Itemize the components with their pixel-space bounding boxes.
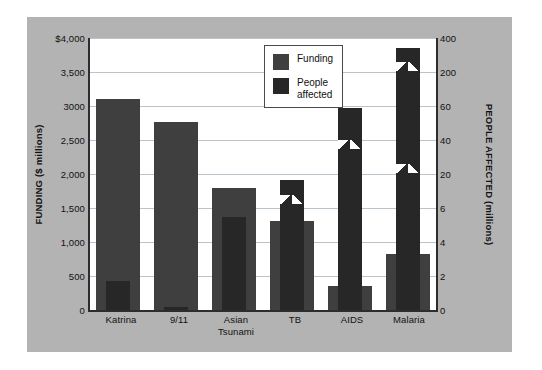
x-axis-line: [88, 310, 438, 312]
x-label-911: 9/11: [148, 314, 210, 326]
y-tick-left-3500: 3,500: [61, 67, 85, 78]
legend-label-people-affected: People affected: [297, 77, 332, 100]
legend-label-funding: Funding: [297, 53, 333, 65]
bar-group-malaria: [386, 38, 436, 310]
y-tick-left-1000: 1,000: [61, 237, 85, 248]
axis-break-malaria-upper: [396, 62, 420, 71]
x-label-asian-tsunami: Asian Tsunami: [203, 314, 269, 338]
y-tick-left-1500: 1,500: [61, 203, 85, 214]
axis-break-aids: [338, 140, 362, 149]
bar-people-asian-tsunami[interactable]: [222, 217, 246, 310]
y-axis-left-title: FUNDING ($ millions): [30, 38, 46, 310]
y-axis-right-title: PEOPLE AFFECTED (millions): [482, 38, 498, 310]
bar-group-katrina: [96, 38, 146, 310]
x-label-katrina: Katrina: [88, 314, 154, 326]
chart-figure: $4,000 3,500 3000 2,500 2,000 1,500 1,00…: [0, 0, 542, 370]
x-label-tb: TB: [264, 314, 326, 326]
x-label-aids: AIDS: [321, 314, 383, 326]
axis-break-tb: [280, 195, 304, 204]
y-tick-left-0: 0: [80, 305, 85, 316]
chart-legend: Funding People affected: [264, 45, 343, 108]
bar-funding-911[interactable]: [154, 122, 198, 310]
y-tick-left-4000: $4,000: [55, 33, 85, 44]
bar-people-malaria[interactable]: [396, 48, 420, 310]
legend-swatch-funding-icon: [273, 54, 289, 70]
y-tick-right-4: 4: [440, 237, 445, 248]
legend-item-people-affected[interactable]: People affected: [273, 77, 333, 100]
y-tick-right-60: 60: [440, 101, 451, 112]
y-tick-left-3000: 3000: [63, 101, 85, 112]
axis-break-malaria-lower: [396, 164, 420, 173]
y-tick-left-500: 500: [69, 271, 85, 282]
x-label-malaria: Malaria: [376, 314, 442, 326]
y-tick-right-20: 20: [440, 169, 451, 180]
y-axis-left-title-text: FUNDING ($ millions): [33, 124, 44, 224]
y-tick-right-2: 2: [440, 271, 445, 282]
y-tick-right-200: 200: [440, 67, 456, 78]
y-tick-left-2500: 2,500: [61, 135, 85, 146]
y-tick-left-2000: 2,000: [61, 169, 85, 180]
bar-people-tb[interactable]: [280, 180, 304, 310]
y-tick-right-400: 400: [440, 33, 456, 44]
legend-item-funding[interactable]: Funding: [273, 53, 333, 70]
y-axis-right-title-text: PEOPLE AFFECTED (millions): [485, 103, 496, 245]
bar-people-katrina[interactable]: [106, 281, 130, 310]
y-tick-right-0: 0: [440, 305, 445, 316]
plot-area: [88, 38, 438, 310]
y-tick-right-40: 40: [440, 135, 451, 146]
y-axis-right: 400 200 60 40 20 6 4 2 0: [440, 38, 480, 310]
y-tick-right-6: 6: [440, 203, 445, 214]
legend-swatch-people-icon: [273, 78, 289, 94]
bar-people-aids[interactable]: [338, 108, 362, 310]
bar-group-asian-tsunami: [212, 38, 262, 310]
bar-funding-katrina[interactable]: [96, 99, 140, 310]
bar-group-911: [154, 38, 204, 310]
x-axis: Katrina 9/11 Asian Tsunami TB AIDS Malar…: [88, 314, 434, 350]
